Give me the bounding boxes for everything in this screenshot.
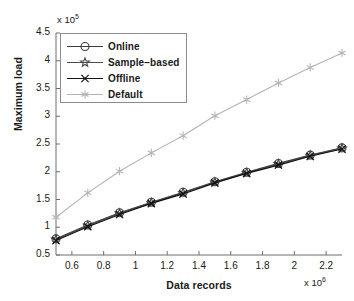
chart-figure: x 105 x 106 Maximum load Data records 0.… — [0, 0, 354, 301]
asterisk-marker — [84, 189, 91, 197]
asterisk-marker — [275, 79, 282, 87]
series-line — [56, 149, 342, 241]
asterisk-marker — [243, 96, 250, 104]
legend-item-label: Sample−based — [108, 57, 180, 68]
asterisk-marker — [338, 49, 345, 57]
series-line — [56, 148, 342, 239]
star-marker — [65, 54, 105, 71]
asterisk-marker — [52, 213, 59, 221]
series-line — [56, 148, 342, 239]
x-marker — [65, 70, 105, 87]
x-marker-glyph — [65, 70, 105, 87]
circle-marker — [65, 38, 105, 55]
star-marker-glyph — [65, 54, 105, 71]
asterisk-marker — [116, 167, 123, 175]
circle-marker-glyph — [65, 38, 105, 55]
asterisk-marker-glyph — [65, 86, 105, 103]
asterisk-marker — [307, 63, 314, 71]
asterisk-marker — [211, 112, 218, 120]
legend-item[interactable]: Online — [65, 38, 140, 55]
legend-item[interactable]: Offline — [65, 70, 140, 87]
legend-item-label: Offline — [108, 73, 140, 84]
asterisk-marker — [148, 149, 155, 157]
legend-item[interactable]: Sample−based — [65, 54, 180, 71]
asterisk-marker — [180, 132, 187, 140]
legend-item-label: Default — [108, 89, 143, 100]
legend-item-label: Online — [108, 41, 140, 52]
series-offline — [52, 145, 345, 244]
chart-legend: OnlineSample−basedOfflineDefault — [60, 33, 187, 103]
legend-item[interactable]: Default — [65, 86, 143, 103]
asterisk-marker — [65, 86, 105, 103]
